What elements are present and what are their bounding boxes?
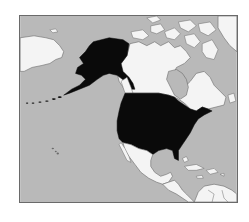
locator-map bbox=[20, 16, 237, 202]
map-frame: Locator map of the United States in Nort… bbox=[19, 15, 238, 203]
